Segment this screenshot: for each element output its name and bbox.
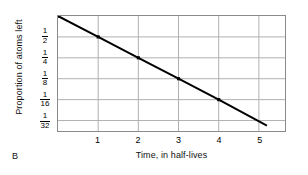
x-axis-tick-label: 2 [128,134,148,146]
x-axis-tick-label: 3 [169,134,189,146]
plot-area [57,15,286,132]
x-axis-tick-labels: 12345 [57,134,286,148]
panel-label: B [12,150,18,162]
vertical-gridlines [98,16,259,131]
fraction-numerator: 1 [42,70,48,78]
fraction-numerator: 1 [42,27,48,35]
decay-line-path [58,16,267,126]
horizontal-gridlines [58,37,285,121]
y-axis-tick-label: 12 [34,27,56,45]
figure-panel: Proportion of atoms left 121418116132 12… [0,0,308,175]
data-point-marker [58,16,60,18]
x-axis-tick-label: 1 [88,134,108,146]
y-axis-tick-label: 132 [34,112,56,130]
plot-svg [58,16,285,131]
fraction-numerator: 1 [40,91,51,99]
data-point-marker [97,35,100,38]
y-axis-tick-label: 14 [34,49,56,67]
fraction-denominator: 32 [40,121,51,130]
x-axis-tick-label: 4 [209,134,229,146]
fraction-denominator: 16 [40,99,51,108]
data-point-marker [177,77,180,80]
y-axis-tick-label: 18 [34,70,56,88]
data-point-marker [217,98,220,101]
x-axis-tick-label: 5 [250,134,270,146]
y-axis-title: Proportion of atoms left [14,7,24,127]
y-axis-tick-labels: 121418116132 [34,14,56,132]
data-point-marker [137,56,140,59]
x-axis-title: Time, in half-lives [57,150,286,160]
decay-line [58,16,267,126]
fraction-numerator: 1 [40,112,51,120]
fraction-denominator: 2 [42,36,48,45]
fraction-denominator: 8 [42,78,48,87]
y-axis-tick-label: 116 [34,91,56,109]
fraction-denominator: 4 [42,57,48,66]
fraction-numerator: 1 [42,49,48,57]
